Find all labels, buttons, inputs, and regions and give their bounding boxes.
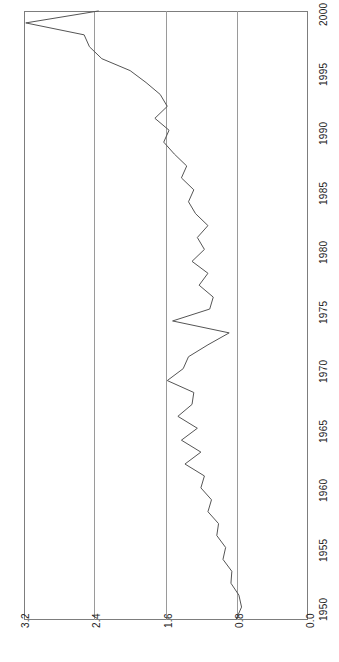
year-tick-1995: 1995 <box>318 63 329 86</box>
year-tick-1980: 1980 <box>318 241 329 264</box>
line-chart: 3.2 2.4 1.6 0.8 0.0 2000 1995 1990 1985 … <box>0 0 339 662</box>
year-tick-2000: 2000 <box>318 3 329 26</box>
year-tick-1975: 1975 <box>318 301 329 324</box>
year-tick-1955: 1955 <box>318 539 329 562</box>
year-tick-1990: 1990 <box>318 122 329 145</box>
value-tick-0.8: 0.8 <box>234 613 245 628</box>
series-svg <box>24 11 308 620</box>
year-tick-1950: 1950 <box>318 598 329 621</box>
plot-area <box>24 11 308 620</box>
value-tick-2.4: 2.4 <box>91 613 102 628</box>
data-line <box>26 11 242 619</box>
value-tick-0.0: 0.0 <box>305 613 316 628</box>
year-tick-1960: 1960 <box>318 479 329 502</box>
value-tick-1.6: 1.6 <box>163 613 174 628</box>
value-tick-3.2: 3.2 <box>20 613 31 628</box>
year-tick-1970: 1970 <box>318 360 329 383</box>
year-tick-1965: 1965 <box>318 420 329 443</box>
year-tick-1985: 1985 <box>318 182 329 205</box>
